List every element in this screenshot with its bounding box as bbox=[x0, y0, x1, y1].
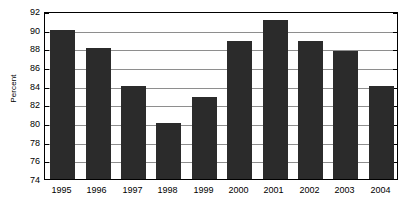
x-tick-label: 1995 bbox=[44, 184, 79, 196]
x-tick-label: 2002 bbox=[292, 184, 327, 196]
y-tick-label: 88 bbox=[18, 45, 40, 54]
bar bbox=[121, 86, 146, 179]
bar bbox=[86, 48, 111, 179]
y-tick-label: 82 bbox=[18, 101, 40, 110]
y-tick-label: 84 bbox=[18, 82, 40, 91]
y-tick-label: 92 bbox=[18, 8, 40, 17]
x-tick-label: 2001 bbox=[256, 184, 291, 196]
x-tick-label: 2003 bbox=[327, 184, 362, 196]
bar bbox=[156, 123, 181, 179]
x-tick-label: 1997 bbox=[115, 184, 150, 196]
x-tick-label: 2000 bbox=[221, 184, 256, 196]
bar-series bbox=[45, 13, 397, 179]
bar bbox=[227, 41, 252, 179]
x-tick-label: 1999 bbox=[186, 184, 221, 196]
y-tick-label: 86 bbox=[18, 64, 40, 73]
plot-area bbox=[44, 12, 398, 180]
bar bbox=[298, 41, 323, 179]
bar bbox=[192, 97, 217, 179]
y-tick-label: 76 bbox=[18, 157, 40, 166]
bar bbox=[50, 30, 75, 179]
x-axis-tick-labels: 1995199619971998199920002001200220032004 bbox=[44, 184, 398, 200]
bar bbox=[333, 51, 358, 179]
y-tick-label: 80 bbox=[18, 120, 40, 129]
y-tick-label: 90 bbox=[18, 26, 40, 35]
bar-chart: Percent 74767880828486889092 19951996199… bbox=[0, 0, 415, 212]
y-axis-title: Percent bbox=[9, 54, 18, 124]
bar bbox=[263, 20, 288, 179]
y-axis-tick-labels: 74767880828486889092 bbox=[18, 0, 40, 212]
y-tick-label: 78 bbox=[18, 138, 40, 147]
bar bbox=[369, 86, 394, 179]
x-tick-label: 2004 bbox=[363, 184, 398, 196]
x-tick-label: 1998 bbox=[150, 184, 185, 196]
x-tick-label: 1996 bbox=[79, 184, 114, 196]
y-tick-label: 74 bbox=[18, 176, 40, 185]
